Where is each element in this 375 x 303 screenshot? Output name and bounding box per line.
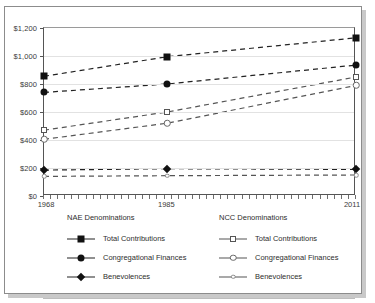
gridline bbox=[44, 168, 354, 169]
x-axis-minor-tick bbox=[164, 195, 165, 199]
legend-divider bbox=[43, 298, 355, 299]
legend-item-label: Total Contributions bbox=[103, 234, 165, 243]
x-axis-minor-tick bbox=[206, 195, 207, 199]
legend-item-label: Benevolences bbox=[103, 272, 150, 281]
x-axis-minor-tick bbox=[256, 195, 257, 199]
gridline bbox=[44, 140, 354, 141]
x-axis-minor-tick bbox=[114, 195, 115, 199]
x-axis-minor-tick bbox=[298, 195, 299, 199]
x-axis-minor-tick bbox=[107, 195, 108, 199]
legend-item-nae-benevolences: Benevolences bbox=[67, 267, 186, 286]
y-axis-tick bbox=[40, 28, 44, 29]
x-axis-minor-tick bbox=[312, 195, 313, 199]
data-point-marker bbox=[41, 73, 48, 80]
x-axis-minor-tick bbox=[178, 195, 179, 199]
gridline bbox=[44, 56, 354, 57]
x-axis-minor-tick bbox=[64, 195, 65, 199]
data-point-marker bbox=[165, 173, 170, 178]
y-axis-tick-label: $400 bbox=[20, 136, 37, 145]
chart-screenshot: $0$200$400$600$800$1,000$1,200 NAE Denom… bbox=[0, 0, 375, 303]
x-axis-tick-label: 2011 bbox=[344, 200, 360, 209]
x-axis-minor-tick bbox=[192, 195, 193, 199]
legend-item-label: Benevolences bbox=[255, 272, 302, 281]
x-axis-tick-label: 1968 bbox=[38, 200, 55, 209]
data-point-marker bbox=[353, 82, 360, 89]
x-axis-minor-tick bbox=[227, 195, 228, 199]
data-point-marker bbox=[164, 53, 171, 60]
y-axis-tick-label: $1,200 bbox=[13, 24, 37, 33]
x-axis-minor-tick bbox=[305, 195, 306, 199]
x-axis-minor-tick bbox=[291, 195, 292, 199]
x-axis-ticks bbox=[43, 195, 355, 200]
legend-group-ncc: NCC Denominations Total Contributions Co… bbox=[219, 213, 338, 286]
x-axis-minor-tick bbox=[185, 195, 186, 199]
plot-area: $0$200$400$600$800$1,000$1,200 bbox=[43, 27, 355, 195]
data-point-marker bbox=[353, 74, 359, 80]
legend-item-nae-total: Total Contributions bbox=[67, 229, 186, 248]
y-axis-tick-label: $200 bbox=[20, 164, 37, 173]
x-axis-minor-tick bbox=[234, 195, 235, 199]
legend-group-nae: NAE Denominations Total Contributions Co… bbox=[67, 213, 186, 286]
filled-circle-marker-icon bbox=[67, 253, 95, 263]
x-axis-minor-tick bbox=[220, 195, 221, 199]
filled-diamond-marker-icon bbox=[67, 272, 95, 282]
open-small-circle-marker-icon bbox=[219, 272, 247, 282]
x-axis-minor-tick bbox=[242, 195, 243, 199]
y-axis-tick-label: $1,000 bbox=[13, 52, 37, 61]
data-point-marker bbox=[42, 174, 47, 179]
x-axis-minor-tick bbox=[320, 195, 321, 199]
x-axis-minor-tick bbox=[263, 195, 264, 199]
x-axis-minor-tick bbox=[50, 195, 51, 199]
y-axis-tick bbox=[40, 112, 44, 113]
x-axis-minor-tick bbox=[348, 195, 349, 199]
data-point-marker bbox=[164, 109, 170, 115]
legend-item-ncc-total: Total Contributions bbox=[219, 229, 338, 248]
y-axis-tick-label: $0 bbox=[28, 192, 37, 201]
series-line bbox=[44, 38, 356, 77]
x-axis-minor-tick bbox=[213, 195, 214, 199]
data-point-marker bbox=[353, 34, 360, 41]
x-axis-minor-tick bbox=[100, 195, 101, 199]
legend-item-label: Total Contributions bbox=[255, 234, 317, 243]
series-line bbox=[44, 175, 356, 176]
x-axis-minor-tick bbox=[284, 195, 285, 199]
x-axis-minor-tick bbox=[249, 195, 250, 199]
filled-square-marker-icon bbox=[67, 234, 95, 244]
x-axis-minor-tick bbox=[57, 195, 58, 199]
x-axis-minor-tick bbox=[43, 195, 44, 199]
data-point-marker bbox=[354, 173, 359, 178]
x-axis-minor-tick bbox=[86, 195, 87, 199]
x-axis-minor-tick bbox=[355, 195, 356, 199]
x-axis-minor-tick bbox=[135, 195, 136, 199]
x-axis-minor-tick bbox=[171, 195, 172, 199]
x-axis-minor-tick bbox=[270, 195, 271, 199]
x-axis-minor-tick bbox=[93, 195, 94, 199]
legend-item-nae-congregational: Congregational Finances bbox=[67, 248, 186, 267]
legend-item-ncc-congregational: Congregational Finances bbox=[219, 248, 338, 267]
data-point-marker bbox=[41, 89, 48, 96]
x-axis-tick-label: 1985 bbox=[158, 200, 175, 209]
legend-item-label: Congregational Finances bbox=[103, 253, 186, 262]
x-axis-minor-tick bbox=[341, 195, 342, 199]
data-point-marker bbox=[353, 62, 360, 69]
x-axis-minor-tick bbox=[121, 195, 122, 199]
x-axis-minor-tick bbox=[149, 195, 150, 199]
chart-legend: NAE Denominations Total Contributions Co… bbox=[43, 213, 355, 293]
data-point-marker bbox=[41, 127, 47, 133]
y-axis-tick-label: $600 bbox=[20, 108, 37, 117]
gridline bbox=[44, 112, 354, 113]
legend-item-ncc-benevolences: Benevolences bbox=[219, 267, 338, 286]
x-axis-minor-tick bbox=[142, 195, 143, 199]
legend-item-label: Congregational Finances bbox=[255, 253, 338, 262]
legend-group-title: NCC Denominations bbox=[219, 213, 338, 222]
x-axis-minor-tick bbox=[156, 195, 157, 199]
open-circle-marker-icon bbox=[219, 253, 247, 263]
x-axis-minor-tick bbox=[78, 195, 79, 199]
y-axis-tick bbox=[40, 56, 44, 57]
y-axis-tick-label: $800 bbox=[20, 80, 37, 89]
legend-group-title: NAE Denominations bbox=[67, 213, 186, 222]
x-axis-minor-tick bbox=[128, 195, 129, 199]
gridline bbox=[44, 84, 354, 85]
x-axis-minor-tick bbox=[71, 195, 72, 199]
chart-frame: $0$200$400$600$800$1,000$1,200 NAE Denom… bbox=[4, 6, 362, 294]
